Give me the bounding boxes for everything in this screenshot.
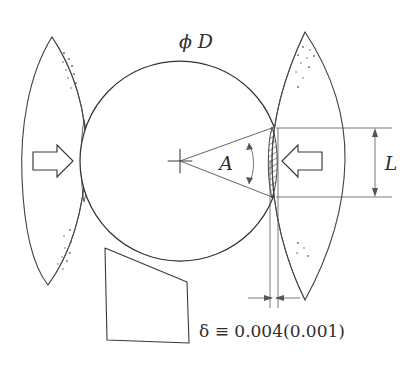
support-block-outline (105, 248, 189, 343)
support-block (105, 248, 189, 343)
figure-canvas: A (0, 0, 407, 370)
L-arrowhead-bottom (372, 188, 378, 197)
diameter-label: ϕ D (179, 30, 213, 52)
angle-label: A (217, 152, 233, 174)
delta-dimension-arrows (248, 295, 300, 301)
deflection-label: δ ≡ 0.004(0.001) (199, 321, 345, 341)
L-arrowhead-top (372, 128, 378, 137)
delta-arrowhead-left (264, 295, 273, 301)
delta-arrowhead-right (275, 295, 284, 301)
engineering-diagram-root: A (0, 0, 407, 370)
length-label: L (384, 152, 398, 174)
